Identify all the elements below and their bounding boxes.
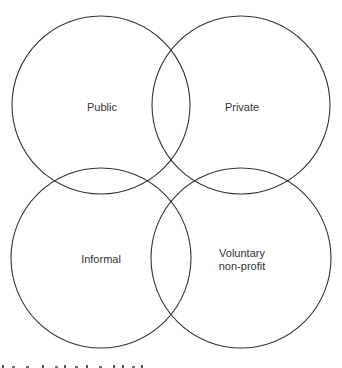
sector-diagram: Public Private Informal Voluntary non-pr…: [0, 0, 342, 368]
label-voluntary-line2: non-profit: [219, 260, 265, 272]
label-private: Private: [225, 101, 259, 113]
label-public: Public: [87, 101, 117, 113]
label-informal: Informal: [81, 253, 121, 265]
label-voluntary-line1: Voluntary: [219, 247, 265, 259]
